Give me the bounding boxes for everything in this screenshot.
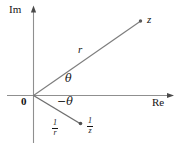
- point-one-over-z-marker: [79, 122, 83, 126]
- vector-r-label: r: [78, 44, 82, 55]
- one-over-z-denominator: z: [87, 127, 93, 135]
- imaginary-axis-label: Im: [9, 4, 21, 15]
- point-z-label: z: [147, 14, 151, 25]
- one-over-r-numerator: 1: [52, 119, 58, 127]
- angle-negative-theta-label: −θ: [57, 96, 73, 107]
- origin-label: 0: [21, 96, 27, 107]
- point-z-marker: [139, 19, 142, 22]
- angle-theta-label: θ: [65, 73, 72, 84]
- imaginary-axis-arrowhead: [31, 6, 36, 13]
- vector-r-line: [34, 22, 141, 96]
- one-over-r-denominator: r: [52, 129, 58, 137]
- complex-plane-diagram: Im Re 0 z r θ −θ 1 r 1 z: [0, 0, 182, 148]
- real-axis-arrowhead: [167, 93, 174, 98]
- real-axis-label: Re: [152, 97, 164, 108]
- one-over-z-numerator: 1: [87, 117, 93, 125]
- one-over-z-label: 1 z: [87, 117, 93, 136]
- one-over-r-label: 1 r: [52, 119, 58, 138]
